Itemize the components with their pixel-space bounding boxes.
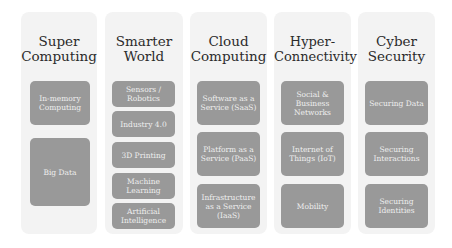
column-title: Smarter World xyxy=(105,34,183,64)
column-cyber-security: Cyber Security Securing Data Securing In… xyxy=(358,12,435,234)
item-securing-data: Securing Data xyxy=(365,81,428,125)
item-3d-printing: 3D Printing xyxy=(112,142,175,168)
item-in-memory-computing: In-memory Computing xyxy=(30,81,90,125)
item-social-business-networks: Social & Business Networks xyxy=(281,81,344,125)
item-sensors-robotics: Sensors / Robotics xyxy=(112,81,175,107)
column-cloud-computing: Cloud Computing Software as a Service (S… xyxy=(190,12,267,234)
item-saas: Software as a Service (SaaS) xyxy=(197,81,260,125)
item-internet-of-things: Internet of Things (IoT) xyxy=(281,132,344,176)
column-title: Cyber Security xyxy=(358,34,435,64)
item-machine-learning: Machine Learning xyxy=(112,173,175,199)
column-title: Cloud Computing xyxy=(190,34,267,64)
item-big-data: Big Data xyxy=(30,138,90,206)
column-super-computing: Super Computing In-memory Computing Big … xyxy=(21,12,97,234)
item-artificial-intelligence: Artificial Intelligence xyxy=(112,203,175,229)
column-hyper-connectivity: Hyper-Connectivity Social & Business Net… xyxy=(274,12,351,234)
column-title: Hyper-Connectivity xyxy=(274,34,351,64)
column-smarter-world: Smarter World Sensors / Robotics Industr… xyxy=(105,12,183,234)
item-paas: Platform as a Service (PaaS) xyxy=(197,132,260,176)
item-securing-identities: Securing Identities xyxy=(365,184,428,228)
item-securing-interactions: Securing Interactions xyxy=(365,132,428,176)
column-title: Super Computing xyxy=(21,34,97,64)
item-industry-4-0: Industry 4.0 xyxy=(112,111,175,137)
item-mobility: Mobility xyxy=(281,184,344,228)
item-iaas: Infrastructure as a Service (IaaS) xyxy=(197,184,260,228)
